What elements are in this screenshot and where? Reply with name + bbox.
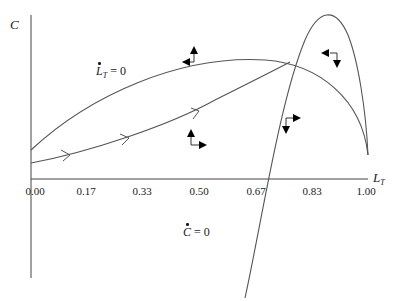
- x-tick-label: 0.67: [246, 186, 265, 197]
- lt-nullcline-label: LT = 0: [96, 65, 126, 80]
- saddle-path-trajectory: [31, 62, 290, 163]
- x-tick-label: 0.00: [25, 186, 44, 197]
- x-tick-label: 1.00: [356, 186, 375, 197]
- direction-arrow-right-up-icon: [187, 129, 207, 149]
- x-tick-label: 0.17: [76, 186, 95, 197]
- trajectory-arrow-icon: [191, 108, 199, 119]
- phase-diagram: [0, 0, 403, 301]
- trajectory-arrows: [61, 108, 199, 161]
- c-nullcline-label: C = 0: [183, 226, 210, 238]
- x-tick-label: 0.50: [189, 186, 208, 197]
- direction-arrow-left-up-icon: [182, 46, 198, 66]
- direction-arrow-right-down-icon: [282, 114, 301, 134]
- direction-arrow-left-down-icon: [321, 49, 341, 68]
- x-tick-label: 0.83: [302, 186, 321, 197]
- y-axis-label: C: [10, 18, 19, 31]
- lt-nullcline-curve: [31, 60, 368, 155]
- x-tick-label: 0.33: [132, 186, 151, 197]
- c-nullcline-curve: [245, 15, 368, 298]
